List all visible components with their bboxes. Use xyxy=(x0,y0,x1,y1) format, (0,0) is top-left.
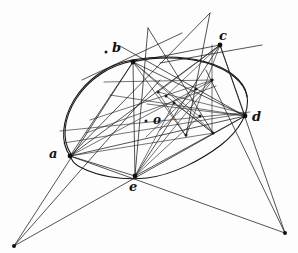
node-dot xyxy=(157,91,160,94)
tangent-group xyxy=(82,33,262,80)
point-label-o: o xyxy=(153,114,161,126)
point-label-e: e xyxy=(129,180,137,193)
ray-pleft-b xyxy=(14,62,133,246)
node-dot xyxy=(211,79,214,82)
node-dot xyxy=(105,51,108,54)
vertex-perspective-right[interactable] xyxy=(283,231,287,235)
chord-a-e xyxy=(70,156,135,176)
vertex-c[interactable] xyxy=(218,43,223,48)
construction-line-group xyxy=(60,45,250,176)
ray-pright-b xyxy=(206,70,285,233)
node-dot xyxy=(185,134,188,137)
figure-canvas: b c d o a e xyxy=(0,0,298,253)
vertex-perspective-left[interactable] xyxy=(12,244,16,248)
point-label-b: b xyxy=(112,41,121,54)
vertex-a[interactable] xyxy=(68,154,73,159)
vertex-e[interactable] xyxy=(133,174,138,179)
construction-line-11 xyxy=(86,86,216,133)
point-label-d: d xyxy=(252,110,261,123)
geometry-figure xyxy=(0,0,298,253)
node-dot xyxy=(212,132,215,135)
node-dot xyxy=(165,95,168,98)
vertex-d[interactable] xyxy=(243,114,248,119)
point-label-c: c xyxy=(219,29,227,42)
ray-pright-a xyxy=(70,156,285,233)
ray-pright-c xyxy=(220,45,285,233)
point-label-a: a xyxy=(49,147,57,160)
node-dot xyxy=(145,120,148,123)
node-dot xyxy=(195,88,198,91)
chord-group xyxy=(70,45,245,176)
node-dot xyxy=(173,102,176,105)
chord-b-e xyxy=(133,62,135,176)
node-dot xyxy=(199,115,202,118)
vertex-b[interactable] xyxy=(131,60,136,65)
construction-line-25 xyxy=(174,103,213,133)
ray-pleft-c xyxy=(14,80,160,246)
